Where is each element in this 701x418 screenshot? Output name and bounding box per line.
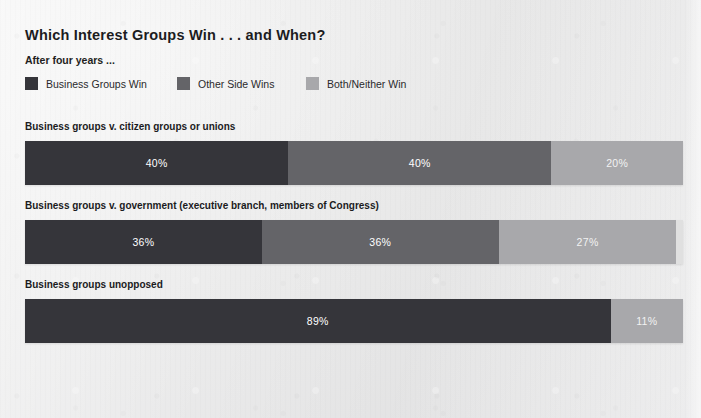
chart-page: Which Interest Groups Win . . . and When… [0, 0, 701, 418]
legend-label-business-groups-win: Business Groups Win [46, 78, 147, 90]
bar-group-citizen-groups: Business groups v. citizen groups or uni… [25, 121, 683, 185]
bar-segment-value: 40% [409, 157, 431, 169]
legend-item-business-groups-win: Business Groups Win [25, 77, 147, 90]
stacked-bar-track: 40% 40% 20% [25, 141, 683, 185]
bar-segment-business: 89% [25, 299, 611, 343]
legend-label-both-neither-win: Both/Neither Win [327, 78, 406, 90]
bar-segment-value: 20% [606, 157, 628, 169]
chart-content: Which Interest Groups Win . . . and When… [25, 27, 683, 358]
bar-group-government: Business groups v. government (executive… [25, 200, 683, 264]
bar-group-unopposed: Business groups unopposed 89% 11% [25, 279, 683, 343]
bar-group-label: Business groups v. citizen groups or uni… [25, 121, 683, 132]
bar-segment-both: 27% [499, 220, 677, 264]
bar-segment-value: 36% [369, 236, 391, 248]
bar-segment-value: 89% [307, 315, 329, 327]
bar-group-label: Business groups v. government (executive… [25, 200, 683, 211]
bar-segment-both: 11% [611, 299, 683, 343]
bar-segment-other: 40% [288, 141, 551, 185]
bar-segment-business: 36% [25, 220, 262, 264]
bar-segment-business: 40% [25, 141, 288, 185]
page-right-margin [685, 0, 701, 418]
chart-legend: Business Groups Win Other Side Wins Both… [25, 77, 683, 90]
stacked-bar-track: 89% 11% [25, 299, 683, 343]
page-title: Which Interest Groups Win . . . and When… [25, 27, 683, 43]
legend-swatch-other-side-wins [177, 77, 190, 90]
stacked-bar-track: 36% 36% 27% [25, 220, 683, 264]
bar-segment-value: 40% [146, 157, 168, 169]
bar-segment-value: 27% [577, 236, 599, 248]
bar-segment-both: 20% [551, 141, 683, 185]
legend-item-other-side-wins: Other Side Wins [177, 77, 274, 90]
legend-swatch-both-neither-win [306, 77, 319, 90]
bar-segment-other: 36% [262, 220, 499, 264]
chart-subtitle: After four years ... [25, 54, 683, 66]
legend-label-other-side-wins: Other Side Wins [198, 78, 274, 90]
legend-item-both-neither-win: Both/Neither Win [306, 77, 406, 90]
bar-group-label: Business groups unopposed [25, 279, 683, 290]
legend-swatch-business-groups-win [25, 77, 38, 90]
bar-segment-value: 11% [636, 315, 657, 327]
bar-segment-value: 36% [132, 236, 154, 248]
